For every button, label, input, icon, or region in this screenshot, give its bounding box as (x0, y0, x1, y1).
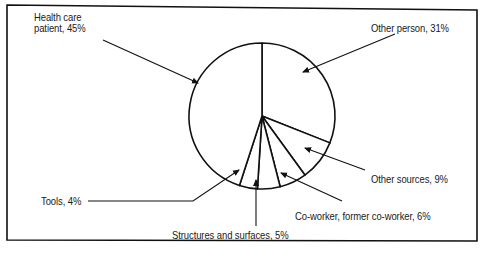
label-health-care: Health care patient, 45% (34, 12, 86, 34)
label-other-sources: Other sources, 9% (371, 174, 448, 185)
label-tools: Tools, 4% (41, 196, 81, 207)
arrow-health-care (103, 40, 198, 83)
label-coworker: Co-worker, former co-worker, 6% (295, 211, 431, 222)
arrow-tools (88, 170, 239, 201)
label-structures: Structures and surfaces, 5% (172, 230, 289, 241)
arrow-other-person (303, 34, 395, 72)
label-health-care-line2: patient, 45% (34, 23, 86, 34)
chart-figure: Health care patient, 45% Other person, 3… (0, 0, 480, 256)
pie-slices (189, 43, 335, 189)
arrow-coworker (281, 173, 342, 201)
label-other-person: Other person, 31% (371, 23, 449, 34)
